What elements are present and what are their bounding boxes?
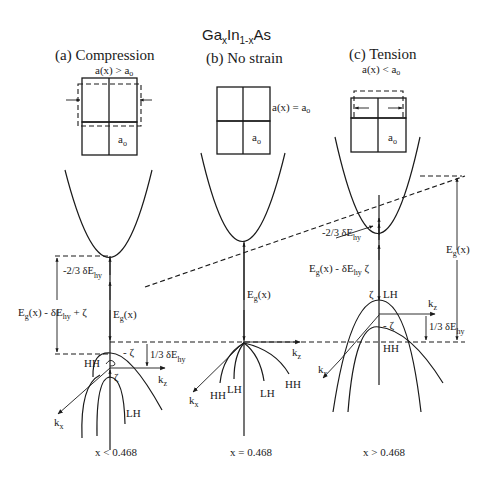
panel-b-gap-label: Eg(x)	[247, 288, 271, 303]
panel-a-vb-shift-label: 1/3 δEhy	[150, 349, 185, 364]
diagram-title: GaxIn1-xAs	[202, 26, 271, 46]
panel-c-hh-band	[348, 327, 443, 412]
panel-a-kx-label: kx	[54, 416, 64, 431]
panel-a-total-gap-label: Eg(x) - δEhy + ζ	[18, 306, 87, 321]
panel-b-conduction-band	[201, 153, 285, 242]
panel-b-kz-label: kz	[292, 346, 302, 361]
panel-b-composition: x = 0.468	[230, 446, 272, 458]
panel-c-hh-label: HH	[383, 342, 399, 354]
panel-b-kx-label: kx	[189, 394, 199, 409]
panel-a-hh-label: HH	[84, 357, 100, 369]
panel-a-heading: (a) Compression	[55, 47, 155, 64]
unstrained-cb-reference-line	[145, 176, 465, 287]
panel-b-lh-right-label: LH	[260, 387, 275, 399]
panel-a-gap-label: Eg(x)	[113, 308, 137, 323]
panel-a-lattice-cell: ao	[66, 78, 152, 155]
panel-c-kx-label: kx	[318, 363, 328, 378]
panel-c-vb-shift-label: 1/3 δEhy	[429, 321, 464, 336]
panel-a-lh-band	[97, 377, 125, 436]
panel-c-lh-label: LH	[383, 288, 398, 300]
panel-a-zeta-label: ζ	[114, 371, 119, 384]
panel-b-cell-label: ao	[252, 131, 261, 146]
panel-a-cell-label: ao	[118, 133, 127, 148]
panel-a-kx-axis	[58, 368, 110, 414]
panel-a-composition: x < 0.468	[95, 446, 137, 458]
panel-c-lattice-condition: a(x) < ao	[362, 63, 400, 77]
panel-b-lh-left-label: LH	[227, 383, 242, 395]
panel-c-total-gap-label: Eg(x) - δEhy ζ	[309, 262, 369, 277]
band-structure-diagram: GaxIn1-xAs (a) Compression (b) No strain…	[0, 0, 495, 482]
panel-a-conduction-band	[65, 170, 152, 258]
panel-c-eg-label: Eg(x)	[446, 243, 470, 258]
panel-b-hh-right-label: HH	[285, 378, 301, 390]
panel-c-zeta-minus-label: - ζ	[383, 319, 394, 332]
panel-c-heading: (c) Tension	[349, 46, 417, 63]
panel-b-lattice-condition: a(x) = ao	[272, 101, 310, 115]
panel-c-kz-label: kz	[428, 297, 438, 312]
panel-a-kz-label: kz	[158, 373, 168, 388]
panel-b-lattice-cell: ao	[217, 87, 270, 154]
panel-a-lh-label: LH	[126, 407, 141, 419]
panel-c-lattice-cell: ao	[351, 91, 406, 152]
panel-b-hh-right-band	[244, 343, 289, 374]
panel-b-heading: (b) No strain	[206, 50, 283, 67]
panel-a-lattice-condition: a(x) > ao	[95, 64, 133, 78]
panel-a-cb-shift-label: -2/3 δEhy	[63, 265, 102, 280]
panel-c-cb-shift-label: -2/3 δEhy	[322, 227, 361, 242]
panel-c-cell-label: ao	[388, 131, 397, 146]
panel-c-composition: x > 0.468	[363, 446, 405, 458]
panel-b-hh-left-label: HH	[210, 389, 226, 401]
panel-c-zeta-label: ζ	[369, 288, 374, 301]
panel-a-zeta-minus-label: - ζ	[123, 346, 134, 359]
